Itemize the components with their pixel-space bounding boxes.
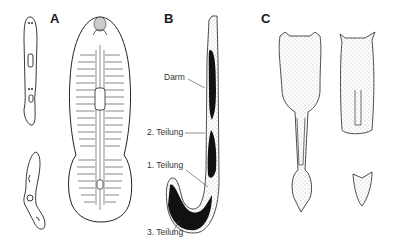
illustration-canvas [0,0,397,246]
budding-organism-small-icon [340,32,375,134]
panel-label-b: B [164,11,173,26]
worm-elongated-icon [24,17,37,125]
label-teilung-1: 1. Teilung [147,160,183,170]
budding-organism-large-icon [279,32,321,212]
teilung1-leader-line [186,170,208,187]
j-worm-icon [166,16,219,233]
bud-fragment-icon [353,172,372,206]
planarian-icon [69,17,132,222]
panel-label-a: A [50,11,59,26]
label-teilung-3: 3. Teilung [147,227,183,237]
worm-fission-icon [24,152,45,229]
darm-leader-line [188,79,205,88]
label-darm: Darm [164,72,185,82]
panel-label-c: C [261,11,270,26]
label-teilung-2: 2. Teilung [147,127,183,137]
